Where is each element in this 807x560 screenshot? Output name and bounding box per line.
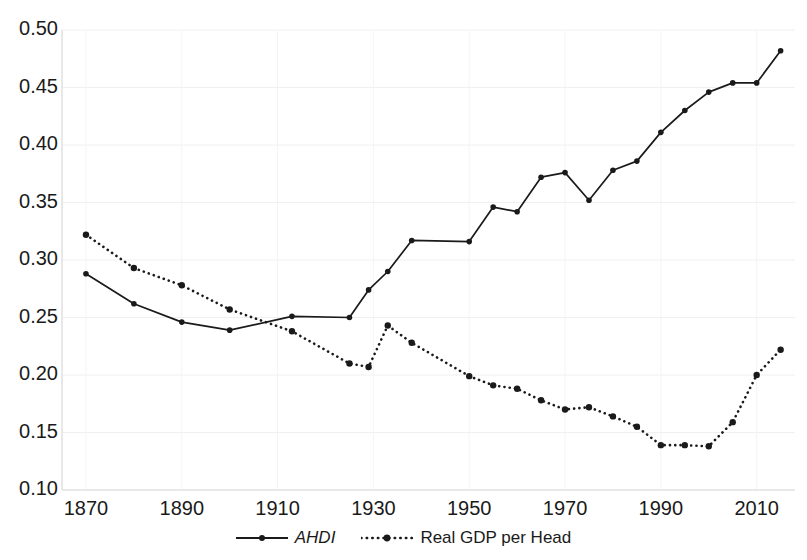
data-point-marker [610, 413, 616, 419]
legend-swatch-dotted-line [361, 531, 413, 545]
x-axis-tick-label: 1950 [434, 497, 504, 520]
chart-legend: AHDI Real GDP per Head [0, 528, 807, 548]
data-point-marker [466, 239, 472, 245]
x-axis-tick-label: 1990 [626, 497, 696, 520]
legend-label-real-gdp-per-head: Real GDP per Head [420, 528, 571, 548]
data-point-marker [289, 314, 295, 320]
legend-item-real-gdp-per-head: Real GDP per Head [361, 528, 571, 548]
x-axis-tick-label: 1890 [147, 497, 217, 520]
chart-container: 0.100.150.200.250.300.350.400.450.50 187… [0, 0, 807, 560]
data-point-marker [131, 301, 137, 307]
data-point-marker [83, 271, 89, 277]
data-point-marker [226, 306, 232, 312]
data-point-marker [754, 80, 760, 86]
series-line-ahdi [86, 51, 781, 330]
data-point-marker [227, 327, 233, 333]
data-point-marker [682, 442, 688, 448]
data-point-marker [753, 372, 759, 378]
data-point-marker [131, 265, 137, 271]
data-point-marker [409, 238, 415, 244]
data-point-marker [730, 80, 736, 86]
data-point-marker [366, 287, 372, 293]
data-point-marker [466, 373, 472, 379]
data-point-marker [289, 328, 295, 334]
x-axis-tick-label: 2010 [722, 497, 792, 520]
data-point-marker [514, 209, 520, 215]
data-point-marker [658, 442, 664, 448]
data-point-marker [562, 406, 568, 412]
y-axis-tick-label: 0.50 [0, 17, 58, 40]
data-point-marker [706, 89, 712, 95]
data-point-marker [586, 197, 592, 203]
data-point-marker [730, 419, 736, 425]
data-point-marker [409, 340, 415, 346]
data-point-marker [634, 158, 640, 164]
y-axis-tick-label: 0.40 [0, 132, 58, 155]
data-point-marker [538, 174, 544, 180]
chart-plot-area [0, 0, 807, 560]
x-axis-tick-label: 1970 [530, 497, 600, 520]
data-point-marker [385, 269, 391, 275]
data-point-marker [514, 386, 520, 392]
data-point-marker [347, 315, 353, 321]
x-axis-tick-label: 1930 [338, 497, 408, 520]
data-point-marker [365, 364, 371, 370]
data-point-marker [490, 382, 496, 388]
legend-label-ahdi: AHDI [295, 528, 336, 548]
x-axis-tick-label: 1870 [51, 497, 121, 520]
y-axis-tick-label: 0.20 [0, 362, 58, 385]
legend-item-ahdi: AHDI [236, 528, 336, 548]
data-point-marker [83, 232, 89, 238]
y-axis-tick-label: 0.15 [0, 420, 58, 443]
data-point-marker [179, 282, 185, 288]
gridlines [62, 30, 795, 490]
data-point-marker [586, 404, 592, 410]
data-point-marker [346, 360, 352, 366]
data-point-marker [777, 347, 783, 353]
y-axis-tick-label: 0.25 [0, 305, 58, 328]
legend-swatch-solid-line [236, 531, 288, 545]
data-point-marker [658, 130, 664, 136]
y-axis-tick-label: 0.45 [0, 75, 58, 98]
data-point-marker [562, 170, 568, 176]
data-point-marker [490, 204, 496, 210]
y-axis-tick-label: 0.10 [0, 477, 58, 500]
data-point-marker [634, 424, 640, 430]
data-point-marker [682, 108, 688, 114]
data-point-marker [778, 48, 784, 54]
y-axis-tick-label: 0.35 [0, 190, 58, 213]
data-point-marker [706, 443, 712, 449]
x-axis-tick-label: 1910 [243, 497, 313, 520]
series-line-real-gdp-per-head [86, 235, 781, 447]
data-point-marker [385, 322, 391, 328]
data-point-marker [538, 397, 544, 403]
data-point-marker [610, 168, 616, 174]
data-series-group [83, 48, 784, 450]
data-point-marker [179, 319, 185, 325]
y-axis-tick-label: 0.30 [0, 247, 58, 270]
